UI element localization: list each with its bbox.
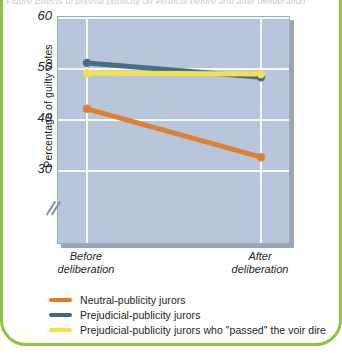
datapoint-neutral-before [83, 105, 91, 113]
legend-item-prejudicial: Prejudicial-publicity jurors [49, 307, 339, 322]
legend-label-prejudicial: Prejudicial-publicity jurors [80, 309, 200, 321]
y-axis: 60 50 40 30 Percentage of guilty votes [22, 0, 52, 355]
legend-swatch-passed-voir-dire [49, 328, 72, 332]
x-tick-before-line2: deliberation [26, 263, 146, 276]
figure-caption: Figure Effects of pretrial publicity on … [6, 0, 342, 5]
x-tick-after: After deliberation [200, 250, 320, 276]
legend-item-passed-voir-dire: Prejudicial-publicity jurors who "passed… [49, 322, 339, 337]
x-tick-after-line2: deliberation [200, 263, 320, 276]
y-tick-60: 60 [26, 9, 52, 22]
datapoint-passed-voir-dire-before [83, 69, 91, 77]
legend-item-neutral: Neutral-publicity jurors [49, 292, 339, 307]
y-axis-title: Percentage of guilty votes [42, 31, 54, 181]
plot-area [57, 16, 290, 244]
x-tick-after-line1: After [200, 250, 320, 263]
series-svg [58, 17, 290, 244]
legend-label-neutral: Neutral-publicity jurors [80, 294, 186, 306]
datapoint-passed-voir-dire-after [257, 70, 265, 78]
axis-break-icon [46, 198, 66, 218]
x-tick-before: Before deliberation [26, 250, 146, 276]
legend: Neutral-publicity jurors Prejudicial-pub… [49, 292, 339, 337]
legend-swatch-neutral [49, 298, 72, 302]
datapoint-prejudicial-before [83, 59, 91, 67]
legend-label-passed-voir-dire: Prejudicial-publicity jurors who "passed… [80, 324, 326, 336]
x-tick-before-line1: Before [26, 250, 146, 263]
series-line-neutral [87, 109, 261, 157]
datapoint-neutral-after [257, 153, 265, 161]
series-line-passed-voir-dire [87, 73, 261, 74]
legend-swatch-prejudicial [49, 313, 72, 317]
